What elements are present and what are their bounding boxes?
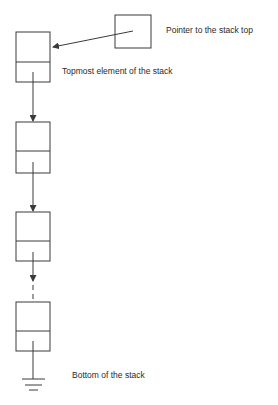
stack-diagram <box>0 0 278 405</box>
null-ground-icon <box>22 341 45 390</box>
pointer-label: Pointer to the stack top <box>166 25 253 35</box>
topmost-label: Topmost element of the stack <box>62 66 173 76</box>
pointer-arrow <box>53 31 133 47</box>
bottom-label: Bottom of the stack <box>72 370 145 380</box>
